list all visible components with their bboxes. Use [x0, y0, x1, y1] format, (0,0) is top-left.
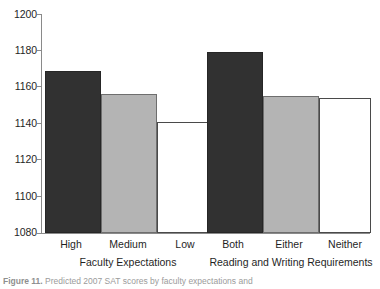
- bar-either: [263, 96, 319, 233]
- figure-container: 1200 1180 1160 1140 1120 1100 1080 High …: [0, 0, 380, 289]
- bar-high: [45, 71, 101, 233]
- category-label-high: High: [42, 238, 100, 250]
- group-label-faculty-expectations: Faculty Expectations: [42, 256, 214, 268]
- group-label-reading-writing-requirements: Reading and Writing Requirements: [206, 256, 376, 268]
- category-label-neither: Neither: [316, 238, 374, 250]
- category-label-either: Either: [260, 238, 318, 250]
- figure-caption-text: Predicted 2007 SAT scores by faculty exp…: [45, 276, 253, 286]
- figure-caption-number: Figure 11.: [3, 276, 43, 286]
- bar-neither: [319, 98, 371, 233]
- category-label-both: Both: [204, 238, 262, 250]
- bar-medium: [101, 94, 157, 233]
- category-label-medium: Medium: [98, 238, 158, 250]
- bar-both: [207, 52, 263, 233]
- figure-caption: Figure 11. Predicted 2007 SAT scores by …: [3, 276, 377, 286]
- bar-low: [157, 122, 213, 233]
